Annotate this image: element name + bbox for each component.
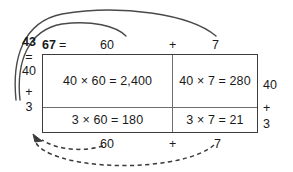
bottom-dashed-arc-inner	[42, 140, 103, 149]
left-part-a-label: 40	[22, 65, 36, 78]
top-part-a-label: 60	[100, 38, 114, 52]
bottom-plus-sign: +	[169, 137, 176, 151]
top-factor-label: 67	[42, 38, 56, 52]
top-part-b-label: 7	[212, 38, 219, 52]
right-part-b-label: 3	[263, 117, 270, 131]
bottom-part-a-label: 60	[100, 137, 114, 151]
left-factor-label: 43	[22, 36, 36, 49]
left-part-b-label: 3	[26, 101, 33, 114]
right-part-a-label: 40	[263, 78, 277, 92]
left-decomposition-column: 43 = 40 + 3	[16, 36, 42, 114]
grid-cell-row1-col1: 3 × 7 = 21	[173, 108, 257, 132]
grid-cell-row1-col0: 3 × 60 = 180	[43, 108, 173, 132]
bottom-dashed-arc-outer	[36, 143, 214, 166]
top-plus-sign: +	[169, 38, 176, 52]
bottom-dashed-arrowhead	[33, 134, 42, 142]
right-decomposition-column: 40 + 3	[263, 78, 285, 131]
top-equals-sign: =	[59, 38, 66, 52]
grid-cell-row0-col1: 40 × 7 = 280	[173, 55, 257, 108]
area-model-grid: 40 × 60 = 2,400 40 × 7 = 280 3 × 60 = 18…	[42, 54, 258, 133]
bottom-part-b-label: 7	[214, 137, 221, 151]
left-equals-sign: =	[25, 51, 32, 64]
area-model-diagram: 67 = 60 + 7 43 = 40 + 3 40 × 60 = 2,400 …	[0, 0, 293, 172]
right-plus-sign: +	[263, 101, 270, 115]
left-plus-sign: +	[25, 86, 32, 99]
grid-cell-row0-col0: 40 × 60 = 2,400	[43, 55, 173, 108]
